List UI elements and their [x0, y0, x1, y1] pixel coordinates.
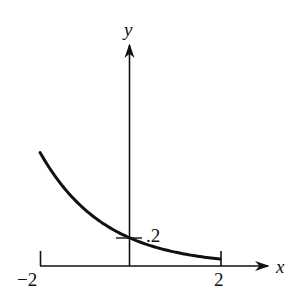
y-axis-label: y — [122, 19, 133, 40]
chart: y x −2 2 .2 — [0, 0, 307, 301]
x-tick-label-2: 2 — [214, 269, 224, 290]
x-tick-label-neg2: −2 — [17, 269, 37, 290]
x-axis-label: x — [275, 256, 285, 277]
intercept-label: .2 — [146, 225, 160, 246]
